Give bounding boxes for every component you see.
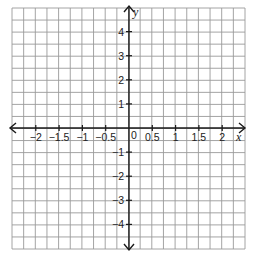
x-axis-label: x (235, 130, 242, 144)
x-tick-label: −1 (76, 131, 88, 143)
coordinate-grid: −2−1.5−1−0.50.511.524321−1−2−3−4 x y 0 (0, 0, 255, 259)
y-tick-label: −4 (112, 218, 124, 230)
x-tick-label: 0.5 (145, 131, 160, 143)
x-tick-label: 2 (219, 131, 225, 143)
y-axis-label: y (132, 5, 139, 19)
y-tick-label: 4 (118, 26, 124, 38)
y-tick-label: 3 (118, 50, 124, 62)
y-tick-label: −2 (112, 170, 124, 182)
x-tick-label: −2 (30, 131, 42, 143)
y-tick-label: −3 (112, 194, 124, 206)
y-tick-label: 1 (118, 98, 124, 110)
origin-label: 0 (131, 129, 137, 141)
x-tick-label: −1.5 (49, 131, 70, 143)
y-tick-label: 2 (118, 74, 124, 86)
x-tick-label: −0.5 (95, 131, 116, 143)
x-tick-label: 1.5 (192, 131, 207, 143)
y-tick-label: −1 (112, 146, 124, 158)
x-tick-label: 1 (173, 131, 179, 143)
